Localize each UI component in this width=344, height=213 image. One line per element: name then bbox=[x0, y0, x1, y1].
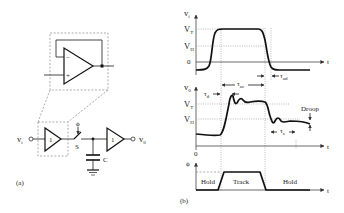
vi-axis-label: vi bbox=[184, 8, 190, 19]
phi-label: ϕ bbox=[76, 120, 80, 128]
tau-ad-label: τad bbox=[280, 72, 288, 81]
output-terminal bbox=[131, 137, 135, 141]
panel-b-waveforms: vi VT VH 0 t τac τad v0 VT VH 0 t bbox=[180, 8, 329, 205]
output-label: v0 bbox=[139, 134, 146, 145]
vh-label: VH bbox=[184, 41, 194, 52]
panel-a-label: (a) bbox=[16, 179, 24, 187]
buffer1-gain: 1 bbox=[49, 136, 53, 144]
tau-ac-label: τac bbox=[237, 80, 245, 89]
panel-a-circuit: − + vi 1 ϕ S C bbox=[16, 33, 146, 187]
buffer2-gain: 1 bbox=[111, 136, 115, 144]
vo-vh-label: VH bbox=[184, 114, 194, 125]
switch-blade bbox=[74, 132, 81, 139]
zero-label: 0 bbox=[187, 58, 191, 66]
zoom-connector-left bbox=[38, 90, 50, 122]
phi-t-label: t bbox=[327, 187, 329, 195]
vo-axis-label: v0 bbox=[184, 82, 191, 93]
vi-waveform bbox=[196, 29, 310, 70]
feedback-wire bbox=[56, 40, 102, 66]
buffer1-triangle-icon bbox=[45, 128, 61, 151]
ground-icon bbox=[87, 170, 99, 175]
sample-hold-diagram: − + vi 1 ϕ S C bbox=[0, 0, 344, 213]
junction-dot bbox=[101, 65, 104, 68]
t-label: t bbox=[327, 58, 329, 66]
panel-b-label: (b) bbox=[180, 197, 189, 205]
zoom-connector-right bbox=[68, 90, 108, 122]
phase-hold-1: Hold bbox=[201, 178, 216, 186]
input-label: vi bbox=[17, 134, 23, 145]
input-terminal bbox=[29, 137, 33, 141]
buffer2-triangle-icon bbox=[107, 128, 124, 151]
opamp-detail-box bbox=[50, 33, 108, 90]
phi-plot: ϕ t Hold Track Hold bbox=[186, 160, 329, 195]
phi-axis-label: ϕ bbox=[186, 160, 190, 168]
vo-t-label: t bbox=[327, 143, 329, 151]
tau-d-label: τd bbox=[204, 90, 210, 99]
capacitor-label: C bbox=[103, 156, 108, 164]
output-plot: v0 VT VH 0 t τd τs Droop bbox=[184, 82, 329, 158]
input-plot: vi VT VH 0 t τac τad bbox=[184, 8, 329, 89]
opamp-minus: − bbox=[66, 54, 70, 62]
vo-vt-label: VT bbox=[184, 99, 193, 110]
vo-waveform bbox=[196, 95, 310, 135]
droop-label: Droop bbox=[301, 105, 319, 113]
origin-label: 0 bbox=[194, 150, 198, 158]
phase-hold-2: Hold bbox=[283, 178, 298, 186]
opamp-detail: − + bbox=[44, 33, 114, 90]
vt-label: VT bbox=[184, 24, 193, 35]
opamp-plus: + bbox=[66, 72, 70, 80]
tau-s-label: τs bbox=[280, 127, 285, 136]
switch-label: S bbox=[75, 143, 79, 151]
phase-track: Track bbox=[233, 178, 250, 186]
